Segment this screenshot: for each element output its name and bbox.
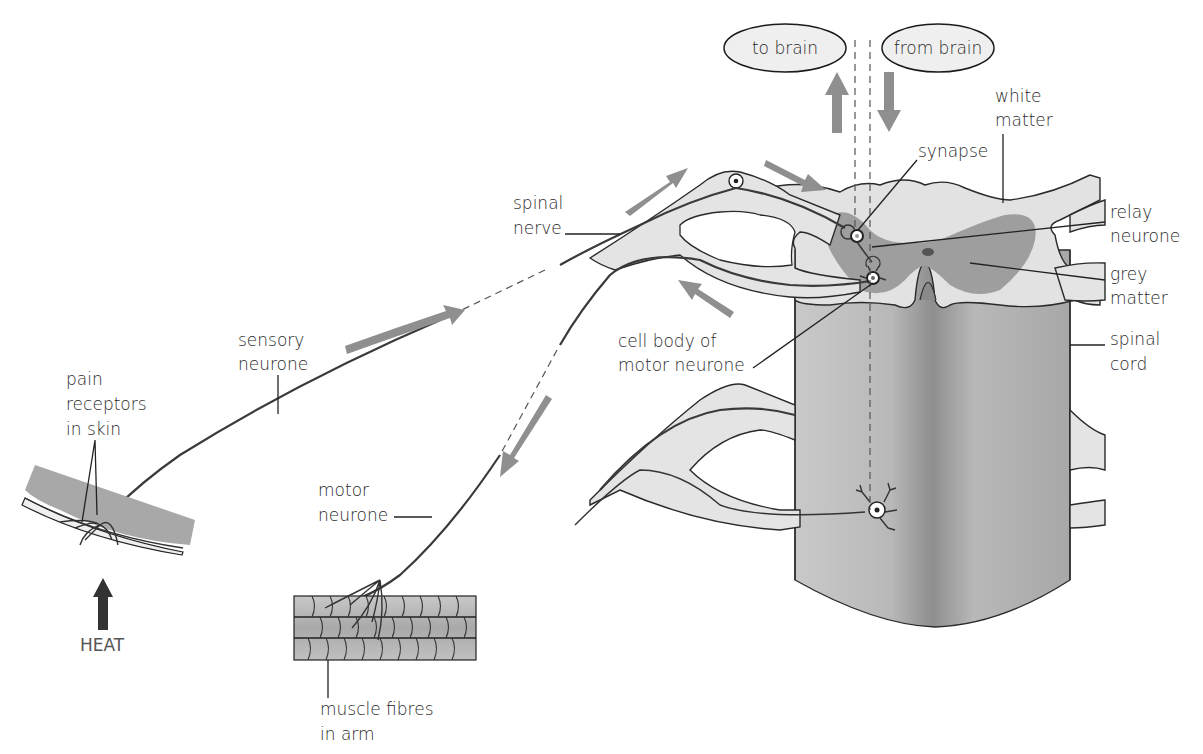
label-grey-matter: grey bbox=[1110, 264, 1147, 284]
flow-arrows bbox=[93, 72, 901, 630]
from-brain-label: from brain bbox=[894, 38, 983, 58]
lower-right-nerve-stub bbox=[1070, 410, 1105, 470]
label-relay-neurone-2: neurone bbox=[1110, 226, 1180, 246]
lower-right-nerve-stub-2 bbox=[1070, 500, 1105, 528]
to-brain-oval: to brain bbox=[724, 24, 846, 72]
arrow-motor-out-icon bbox=[678, 280, 734, 318]
arrow-up-icon bbox=[825, 72, 849, 133]
muscle-fibres bbox=[294, 580, 476, 660]
label-pain-receptors-2: receptors bbox=[66, 394, 147, 414]
label-motor-neurone: motor bbox=[318, 480, 369, 500]
skin-section bbox=[22, 440, 195, 555]
label-heat: HEAT bbox=[80, 635, 125, 655]
label-sensory-neurone: sensory bbox=[238, 330, 304, 350]
from-brain-oval: from brain bbox=[882, 24, 994, 72]
label-synapse: synapse bbox=[918, 141, 988, 161]
label-muscle-fibres-2: in arm bbox=[320, 724, 375, 744]
label-grey-matter-2: matter bbox=[1110, 288, 1168, 308]
label-spinal-cord: spinal bbox=[1110, 329, 1160, 349]
label-spinal-nerve: spinal bbox=[513, 193, 563, 213]
label-white-matter-2: matter bbox=[995, 110, 1053, 130]
label-cell-body-2: motor neurone bbox=[618, 355, 745, 375]
label-white-matter: white bbox=[995, 86, 1042, 106]
label-spinal-nerve-2: nerve bbox=[513, 218, 562, 238]
reflex-arc-diagram: to brain from brain bbox=[0, 0, 1203, 754]
label-muscle-fibres: muscle fibres bbox=[320, 699, 434, 719]
label-pain-receptors-3: in skin bbox=[66, 419, 121, 439]
label-pain-receptors: pain bbox=[66, 369, 103, 389]
label-relay-neurone: relay bbox=[1110, 202, 1152, 222]
to-brain-label: to brain bbox=[752, 38, 818, 58]
arrow-sensory-icon bbox=[345, 305, 465, 354]
label-motor-neurone-2: neurone bbox=[318, 505, 388, 525]
arrow-down-icon bbox=[877, 72, 901, 132]
label-spinal-cord-2: cord bbox=[1110, 354, 1147, 374]
label-cell-body: cell body of bbox=[618, 331, 717, 351]
heat-arrow-icon bbox=[93, 578, 113, 630]
label-sensory-neurone-2: neurone bbox=[238, 354, 308, 374]
